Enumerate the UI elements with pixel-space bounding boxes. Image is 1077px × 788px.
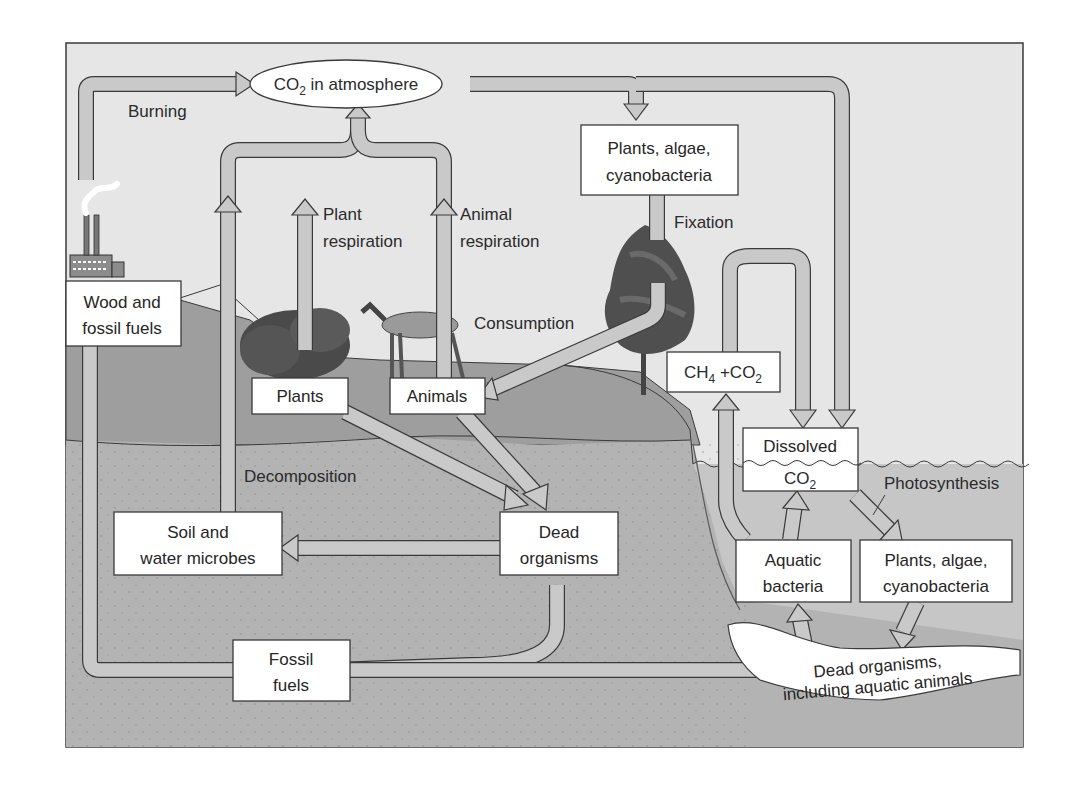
svg-text:Dissolved: Dissolved (763, 437, 837, 456)
node-co2-atmosphere: CO2 in atmosphere (250, 60, 442, 108)
node-soil-water-microbes: Soil and water microbes (114, 512, 282, 575)
node-plants-algae-water: Plants, algae, cyanobacteria (860, 540, 1012, 602)
svg-text:bacteria: bacteria (763, 577, 824, 596)
svg-text:Plants: Plants (276, 387, 323, 406)
svg-text:fuels: fuels (273, 676, 309, 695)
node-fossil-fuels: Fossil fuels (233, 640, 350, 701)
node-wood-fossil-fuels: Wood and fossil fuels (66, 281, 181, 346)
svg-text:Animals: Animals (407, 387, 467, 406)
label-photosynthesis: Photosynthesis (884, 474, 999, 493)
svg-text:Dead: Dead (539, 523, 580, 542)
node-aquatic-bacteria: Aquatic bacteria (736, 540, 851, 602)
svg-text:cyanobacteria: cyanobacteria (606, 166, 712, 185)
svg-text:Wood and: Wood and (83, 293, 160, 312)
node-animals: Animals (390, 378, 485, 414)
svg-text:water microbes: water microbes (139, 549, 255, 568)
svg-text:cyanobacteria: cyanobacteria (883, 577, 989, 596)
label-decomposition: Decomposition (244, 467, 356, 486)
label-animal-respiration-1: Animal (460, 205, 512, 224)
svg-text:organisms: organisms (520, 549, 598, 568)
svg-text:Fossil: Fossil (269, 650, 313, 669)
node-dead-organisms: Dead organisms (500, 512, 618, 575)
svg-text:fossil fuels: fossil fuels (82, 319, 161, 338)
label-animal-respiration-2: respiration (460, 232, 539, 251)
svg-text:Plants, algae,: Plants, algae, (607, 139, 710, 158)
node-plants: Plants (252, 378, 348, 414)
svg-text:Plants, algae,: Plants, algae, (884, 551, 987, 570)
carbon-cycle-diagram: Dead organisms, including aquatic animal… (0, 0, 1077, 788)
label-burning: Burning (128, 102, 187, 121)
svg-text:Soil and: Soil and (167, 523, 228, 542)
label-consumption: Consumption (474, 314, 574, 333)
node-dissolved-co2: Dissolved CO2 (743, 428, 861, 492)
node-ch4-co2: CH4 +CO2 (667, 352, 780, 392)
label-plant-respiration-2: respiration (323, 232, 402, 251)
label-plant-respiration-1: Plant (323, 205, 362, 224)
label-fixation: Fixation (674, 213, 734, 232)
node-plants-algae-top: Plants, algae, cyanobacteria (581, 125, 738, 195)
svg-text:Aquatic: Aquatic (765, 551, 822, 570)
